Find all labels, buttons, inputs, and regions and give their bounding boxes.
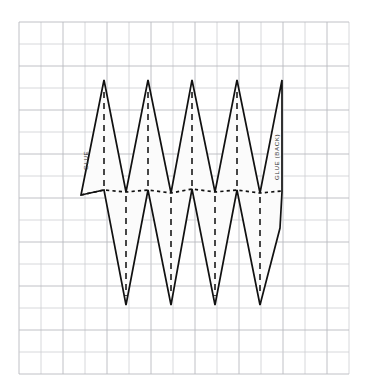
glue-tab-right-label: GLUE (BACK) <box>273 134 280 180</box>
glue-tab-left-label: GLUE <box>82 151 89 170</box>
diagram-canvas: GLUE GLUE (BACK) <box>0 0 368 384</box>
papercraft-net-diagram: GLUE GLUE (BACK) <box>0 0 368 384</box>
